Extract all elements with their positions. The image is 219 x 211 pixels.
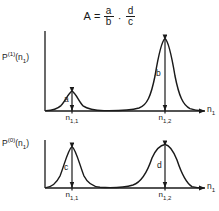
lower-panel bbox=[45, 140, 205, 191]
upper-tick-n12-sub: 1,2 bbox=[163, 118, 171, 124]
measure-label-c: c bbox=[64, 162, 68, 172]
lower-xlabel-subscript: 1 bbox=[212, 186, 215, 193]
upper-xlabel-subscript: 1 bbox=[212, 109, 215, 116]
lower-tick-n11-sub: 1,1 bbox=[70, 195, 78, 201]
measure-label-d: d bbox=[157, 160, 162, 170]
lower-tick-label-n12: n1,2 bbox=[159, 190, 172, 201]
upper-panel bbox=[45, 31, 205, 114]
figure-container: A = a b · d c bbox=[0, 0, 219, 211]
upper-tick-n11-sub: 1,1 bbox=[70, 118, 78, 124]
upper-y-axis-label: P(1)(n1) bbox=[2, 50, 29, 64]
lower-ylabel-paren-open: (n bbox=[15, 138, 23, 148]
upper-ylabel-paren-open: (n bbox=[15, 52, 23, 62]
upper-tick-label-n11: n1,1 bbox=[66, 113, 79, 124]
lower-y-axis-label: P(0)(n1) bbox=[2, 136, 29, 150]
plots-svg bbox=[0, 0, 219, 211]
upper-ylabel-paren-close: ) bbox=[26, 52, 29, 62]
upper-tick-label-n12: n1,2 bbox=[159, 113, 172, 124]
upper-distribution-curve bbox=[46, 39, 203, 111]
lower-tick-n12-sub: 1,2 bbox=[163, 195, 171, 201]
lower-tick-label-n11: n1,1 bbox=[66, 190, 79, 201]
upper-x-axis-label: n1 bbox=[207, 104, 215, 116]
lower-ylabel-paren-close: ) bbox=[26, 138, 29, 148]
measure-label-b: b bbox=[156, 68, 161, 78]
lower-x-axis-label: n1 bbox=[207, 181, 215, 193]
measure-label-a: a bbox=[64, 94, 69, 104]
lower-distribution-curve bbox=[46, 145, 203, 189]
